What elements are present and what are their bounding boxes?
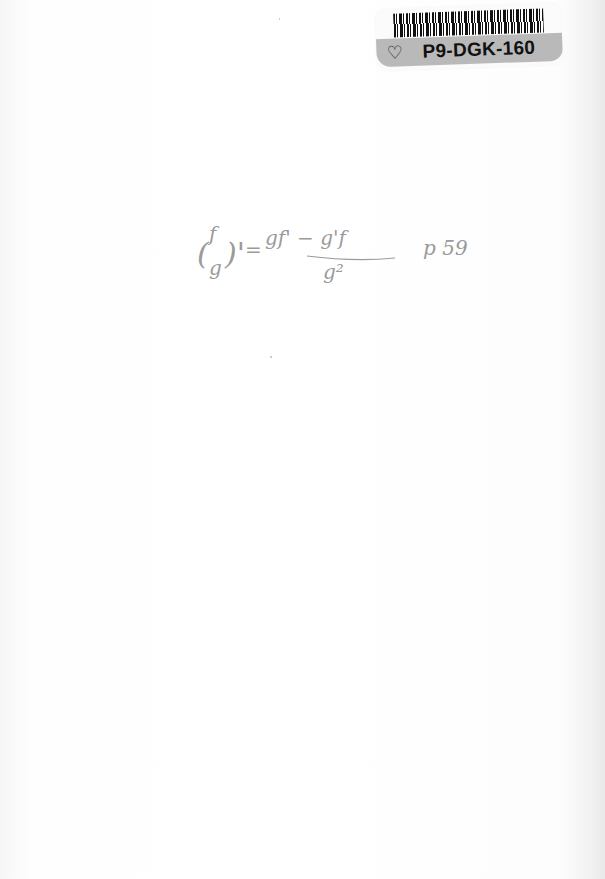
handwritten-formula: ( f g )' = gf' − g'f g² p 59 <box>195 222 475 312</box>
formula-denominator: g² <box>323 260 344 284</box>
barcode-sticker: ♡ P9-DGK-160 <box>375 3 563 71</box>
sticker-code: P9-DGK-160 <box>422 37 536 63</box>
leaf-outline-icon: ♡ <box>386 43 409 62</box>
page-reference: p 59 <box>423 236 468 260</box>
sticker-label-band: ♡ P9-DGK-160 <box>376 33 563 67</box>
paper-speck <box>270 356 272 358</box>
paper-speck <box>279 18 280 20</box>
scanned-page: ♡ P9-DGK-160 ( f g )' = gf' − g'f g² p 5… <box>0 0 605 879</box>
